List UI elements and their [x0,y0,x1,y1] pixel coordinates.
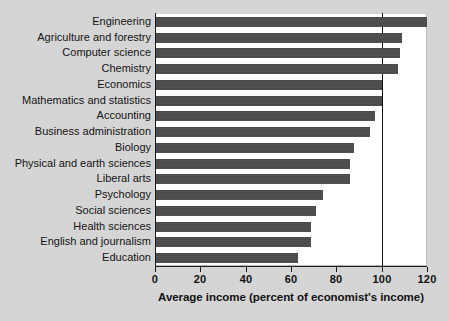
x-tick [246,267,247,272]
x-tick-label: 80 [330,273,343,285]
x-tick-label: 100 [373,273,392,285]
bar-row [155,237,427,247]
bar-row [155,127,427,137]
bar-chemistry [155,64,398,74]
bar-row [155,143,427,153]
category-label: Education [1,252,151,263]
x-tick-label: 0 [152,273,158,285]
category-label: Liberal arts [1,173,151,184]
bar-row [155,17,427,27]
category-label: English and journalism [1,236,151,247]
category-label: Physical and earth sciences [1,158,151,169]
x-tick [291,267,292,272]
y-axis-line [155,13,156,267]
bar-chart-figure: EngineeringAgriculture and forestryCompu… [0,0,449,321]
bar-computer-science [155,48,400,58]
bar-accounting [155,111,375,121]
category-axis-labels: EngineeringAgriculture and forestryCompu… [0,14,151,266]
category-label: Economics [1,79,151,90]
bar-physical-and-earth-sciences [155,159,350,169]
bar-liberal-arts [155,174,350,184]
bar-row [155,159,427,169]
x-tick-label: 120 [418,273,437,285]
category-label: Biology [1,142,151,153]
bar-mathematics-and-statistics [155,96,382,106]
x-tick [427,267,428,272]
x-tick-label: 40 [240,273,253,285]
bar-row [155,64,427,74]
bar-social-sciences [155,206,316,216]
bar-row [155,96,427,106]
x-tick-label: 20 [194,273,207,285]
category-label: Computer science [1,47,151,58]
bar-health-sciences [155,222,311,232]
bar-row [155,80,427,90]
category-label: Agriculture and forestry [1,32,151,43]
x-tick [336,267,337,272]
category-label: Chemistry [1,63,151,74]
bar-english-and-journalism [155,237,311,247]
bar-row [155,222,427,232]
category-label: Accounting [1,110,151,121]
bar-row [155,253,427,263]
bar-engineering [155,17,427,27]
bar-agriculture-and-forestry [155,33,402,43]
x-tick-label: 60 [285,273,298,285]
bar-row [155,206,427,216]
bar-row [155,174,427,184]
x-tick [155,267,156,272]
category-label: Psychology [1,189,151,200]
bar-row [155,48,427,58]
category-label: Social sciences [1,205,151,216]
bar-row [155,190,427,200]
x-axis-title: Average income (percent of economist's i… [155,291,427,303]
category-label: Business administration [1,126,151,137]
bar-biology [155,143,354,153]
bar-psychology [155,190,323,200]
plot-area [155,14,427,266]
bar-economics [155,80,382,90]
category-label: Mathematics and statistics [1,95,151,106]
category-label: Health sciences [1,221,151,232]
bar-education [155,253,298,263]
x-tick [382,267,383,272]
bar-business-administration [155,127,370,137]
bar-row [155,111,427,121]
bar-row [155,33,427,43]
category-label: Engineering [1,16,151,27]
x-tick [200,267,201,272]
